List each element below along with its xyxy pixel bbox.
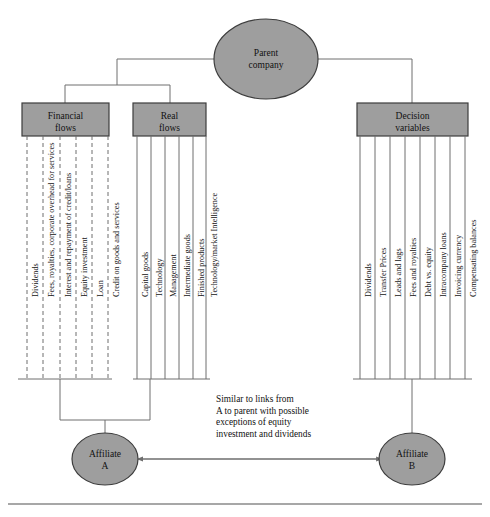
affiliate-a-collector bbox=[18, 379, 210, 437]
affiliate-a-node bbox=[72, 433, 138, 485]
real-flow-label-1: Technology bbox=[155, 258, 164, 297]
real-flow-label-0: Capital goods bbox=[141, 252, 150, 297]
decision-variable-label-1: Transfer Prices bbox=[379, 248, 388, 298]
affiliate-b-node bbox=[379, 433, 445, 485]
decision-variable-label-5: Intracompany loans bbox=[439, 232, 448, 297]
decision-variable-label-2: Leads and lags bbox=[394, 248, 403, 297]
financial-flow-label-4: Loan bbox=[96, 280, 105, 297]
financial-flow-label-0: Dividends bbox=[31, 263, 40, 297]
financial-flow-label-5: Credit on goods and services bbox=[112, 202, 121, 297]
decision-variable-label-6: Invoicing currency bbox=[454, 235, 463, 297]
financial-flow-label-3: Equity investment bbox=[80, 237, 89, 297]
real-flow-label-3: Intermediate goods bbox=[183, 234, 192, 297]
decision-variables-box bbox=[357, 103, 468, 136]
decision-variable-label-4: Debt vs. equity bbox=[424, 247, 433, 297]
real-flow-label-5: Technology/market Intelligence bbox=[210, 193, 219, 297]
decision-variable-label-7: Compensating balances bbox=[469, 219, 478, 297]
parent-node bbox=[214, 19, 318, 99]
parent-to-decision-connector bbox=[318, 59, 412, 103]
affiliate-link-note: Similar to links from A to parent with p… bbox=[216, 394, 376, 440]
financial-flow-label-2: Interest and repayment of credit/loans bbox=[64, 173, 73, 297]
financial-flow-label-1: Fees, royalties, corporate overhead for … bbox=[47, 143, 56, 297]
parent-to-left-branch-connectors bbox=[65, 59, 214, 103]
real-flow-label-2: Management bbox=[169, 254, 178, 297]
financial-flows-box bbox=[22, 103, 109, 136]
decision-variable-label-3: Fees and royalties bbox=[409, 238, 418, 297]
real-flows-box bbox=[133, 103, 206, 136]
decision-variable-label-0: Dividends bbox=[364, 263, 373, 297]
diagram-canvas: Parent company Financial flows Real flow… bbox=[0, 0, 490, 517]
real-flow-label-4: Finished products bbox=[197, 239, 206, 297]
